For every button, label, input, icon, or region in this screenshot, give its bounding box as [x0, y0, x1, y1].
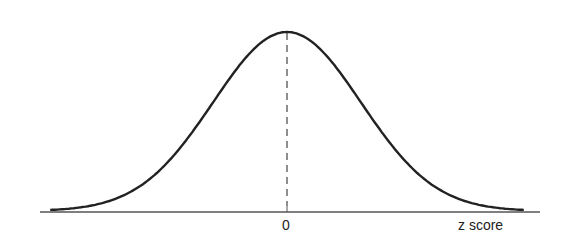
- x-axis-title: z score: [458, 217, 503, 233]
- x-tick-label-zero: 0: [282, 217, 290, 233]
- normal-distribution-chart: [0, 0, 568, 251]
